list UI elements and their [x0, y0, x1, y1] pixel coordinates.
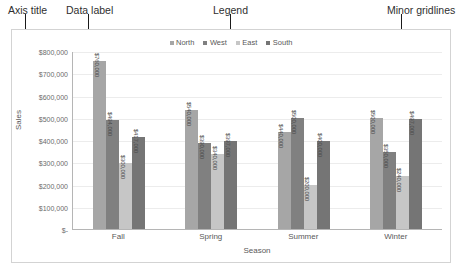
- annotation-label: Minor gridlines: [387, 4, 455, 16]
- y-axis-tick-label: $200,000: [39, 182, 68, 189]
- chart-frame: NorthWestEastSouth Sales $800,000$700,00…: [11, 29, 451, 263]
- bar-data-label: $440,000: [278, 124, 284, 148]
- bar-data-label: $300,000: [120, 155, 126, 179]
- annotation-label: Data label: [66, 4, 113, 16]
- bar-data-label: $390,000: [199, 135, 205, 159]
- bar-data-label: $340,000: [212, 146, 218, 170]
- bar[interactable]: $390,000: [198, 143, 211, 229]
- gridlines-and-bars: $760,000$494,000$300,000$417,000$540,000…: [72, 52, 442, 230]
- plot-area: Sales $800,000$700,000$600,000$500,000$4…: [12, 52, 450, 264]
- bar-groups: $760,000$494,000$300,000$417,000$540,000…: [73, 52, 442, 229]
- legend-label: South: [273, 38, 293, 47]
- y-axis-tick-label: $300,000: [39, 160, 68, 167]
- legend-item[interactable]: West: [203, 38, 226, 47]
- y-axis-tick-label: $700,000: [39, 71, 68, 78]
- bar-data-label: $400,000: [317, 132, 323, 156]
- bar[interactable]: $340,000: [211, 154, 224, 229]
- y-axis-tick-label: $500,000: [39, 115, 68, 122]
- bar[interactable]: $350,000: [383, 152, 396, 229]
- y-axis-tick-label: $400,000: [39, 138, 68, 145]
- y-axis-tick-label: $-: [62, 227, 68, 234]
- bar-data-label: $240,000: [396, 168, 402, 192]
- bar[interactable]: $397,000: [224, 141, 237, 229]
- bar[interactable]: $200,000: [304, 185, 317, 229]
- x-axis-line: [73, 229, 442, 230]
- legend-item[interactable]: North: [170, 38, 195, 47]
- y-axis-tick-label: $800,000: [39, 49, 68, 56]
- legend-swatch-icon: [170, 41, 174, 45]
- legend-item[interactable]: East: [236, 38, 258, 47]
- bar-data-label: $200,000: [304, 177, 310, 201]
- legend-label: West: [210, 38, 227, 47]
- bar[interactable]: $500,000: [291, 118, 304, 229]
- legend-label: North: [176, 38, 194, 47]
- x-axis-category-label: Spring: [165, 232, 258, 241]
- chart-legend: NorthWestEastSouth: [12, 38, 450, 47]
- bar[interactable]: $440,000: [278, 132, 291, 229]
- bar-group: $440,000$500,000$200,000$400,000: [258, 52, 350, 229]
- bar[interactable]: $240,000: [396, 176, 409, 229]
- legend-label: East: [242, 38, 257, 47]
- y-axis-tick-label: $600,000: [39, 93, 68, 100]
- legend-swatch-icon: [266, 41, 270, 45]
- bar-data-label: $500,000: [291, 110, 297, 134]
- bar[interactable]: $494,000: [106, 120, 119, 229]
- bar-data-label: $760,000: [94, 53, 100, 77]
- bar[interactable]: $500,000: [370, 118, 383, 229]
- bar-data-label: $397,000: [225, 133, 231, 157]
- bar[interactable]: $417,000: [132, 137, 145, 229]
- bar[interactable]: $540,000: [185, 110, 198, 229]
- bar-data-label: $540,000: [186, 101, 192, 125]
- bar-data-label: $497,000: [409, 111, 415, 135]
- x-axis-category-label: Fall: [72, 232, 165, 241]
- legend-swatch-icon: [203, 41, 207, 45]
- bar-data-label: $350,000: [383, 143, 389, 167]
- bar-data-label: $500,000: [370, 110, 376, 134]
- bar-group: $540,000$390,000$340,000$397,000: [165, 52, 257, 229]
- annotation-label: Axis title: [8, 4, 47, 16]
- x-axis-category-label: Summer: [257, 232, 350, 241]
- legend-item[interactable]: South: [266, 38, 292, 47]
- y-axis-tick-labels: $800,000$700,000$600,000$500,000$400,000…: [20, 52, 70, 230]
- bar[interactable]: $300,000: [119, 163, 132, 229]
- bar-data-label: $417,000: [133, 129, 139, 153]
- x-axis-title: Season: [72, 246, 442, 255]
- legend-swatch-icon: [236, 41, 240, 45]
- y-axis-tick-label: $100,000: [39, 204, 68, 211]
- x-axis-category-label: Winter: [350, 232, 443, 241]
- bar-group: $500,000$350,000$240,000$497,000: [350, 52, 442, 229]
- bar[interactable]: $400,000: [317, 141, 330, 230]
- bar[interactable]: $497,000: [409, 119, 422, 229]
- bar-group: $760,000$494,000$300,000$417,000: [73, 52, 165, 229]
- bar-data-label: $494,000: [107, 112, 113, 136]
- x-axis-category-labels: FallSpringSummerWinter: [72, 232, 442, 241]
- bar[interactable]: $760,000: [93, 61, 106, 229]
